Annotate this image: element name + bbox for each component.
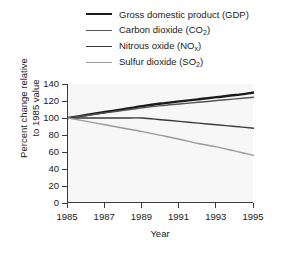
- legend-item: Sulfur dioxide (SO2): [86, 54, 281, 70]
- legend-item-label: Nitrous oxide (NOx): [119, 40, 201, 52]
- x-tick-label: 1995: [233, 212, 273, 222]
- x-tick-mark: [141, 203, 142, 208]
- legend-item: Gross domestic product (GDP): [86, 6, 281, 22]
- x-tick-label: 1991: [159, 212, 199, 222]
- y-tick-mark: [62, 118, 67, 119]
- legend-item: Nitrous oxide (NOx): [86, 38, 281, 54]
- y-tick-mark: [62, 152, 67, 153]
- x-tick-mark: [178, 203, 179, 208]
- legend-item-label: Gross domestic product (GDP): [119, 9, 249, 20]
- x-tick-mark: [215, 203, 216, 208]
- legend-line-swatch-icon: [86, 46, 112, 47]
- legend-item-label: Sulfur dioxide (SO2): [119, 56, 203, 68]
- y-tick-label: 0: [19, 198, 59, 207]
- y-axis-title: Percent change relative to 1985 value: [18, 28, 42, 188]
- chart-legend: Gross domestic product (GDP)Carbon dioxi…: [86, 6, 281, 70]
- y-axis-title-line1: Percent change relative: [18, 28, 30, 188]
- series-line-co2: [68, 97, 254, 118]
- y-axis-title-line2: to 1985 value: [30, 28, 42, 188]
- y-tick-mark: [62, 101, 67, 102]
- chart-figure: Gross domestic product (GDP)Carbon dioxi…: [0, 0, 283, 260]
- y-tick-mark: [62, 135, 67, 136]
- x-tick-label: 1985: [47, 212, 87, 222]
- legend-item: Carbon dioxide (CO2): [86, 22, 281, 38]
- y-tick-mark: [62, 186, 67, 187]
- plot-lines: [68, 84, 254, 203]
- legend-line-swatch-icon: [86, 30, 112, 31]
- x-tick-label: 1989: [121, 212, 161, 222]
- x-tick-mark: [253, 203, 254, 208]
- y-tick-mark: [62, 84, 67, 85]
- x-axis-title: Year: [67, 228, 253, 239]
- x-tick-mark: [104, 203, 105, 208]
- legend-line-swatch-icon: [86, 62, 112, 63]
- legend-line-swatch-icon: [86, 13, 112, 15]
- x-tick-mark: [67, 203, 68, 208]
- x-tick-label: 1993: [196, 212, 236, 222]
- y-tick-mark: [62, 169, 67, 170]
- x-tick-label: 1987: [84, 212, 124, 222]
- legend-item-label: Carbon dioxide (CO2): [119, 24, 210, 36]
- series-line-so2: [68, 118, 254, 155]
- plot-area: [67, 84, 253, 203]
